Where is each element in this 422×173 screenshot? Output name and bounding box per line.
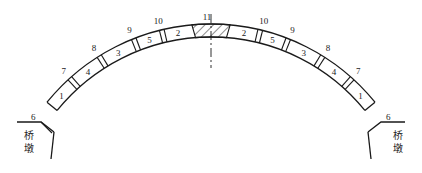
joint-label-right: 9 (290, 25, 295, 35)
left-pier (17, 122, 54, 159)
arch-end-left (47, 102, 57, 110)
joint-label-right: 10 (259, 16, 269, 26)
joint-line (259, 30, 262, 43)
joint-line (97, 57, 104, 68)
pier-label-right-1: 桥 (393, 130, 403, 141)
arch-end-right (365, 102, 375, 110)
crown-label: 11 (203, 12, 212, 22)
segment-label-right: 1 (358, 91, 363, 101)
joint-line (286, 40, 291, 52)
joint-line (131, 40, 136, 52)
joint-label-right-6: 6 (386, 112, 391, 122)
joint-label-left: 8 (92, 43, 97, 53)
joint-label-left: 9 (127, 25, 132, 35)
joint-label-left-6: 6 (31, 112, 36, 122)
joint-line (159, 30, 162, 43)
pier-label-right-2: 墩 (393, 142, 403, 154)
segment-label-right: 4 (332, 67, 337, 77)
joint-label-left: 10 (154, 16, 164, 26)
joint-line (314, 55, 321, 66)
segment-label-right: 3 (302, 48, 307, 58)
segment-label-right: 2 (242, 28, 247, 38)
joint-line (255, 29, 258, 42)
segment-label-left: 3 (116, 48, 121, 58)
joint-line (164, 29, 167, 42)
joint-label-right: 7 (356, 66, 361, 76)
pier-label-left-1: 桥 (24, 130, 34, 141)
joint-label-right: 8 (326, 43, 331, 53)
segment-label-left: 5 (147, 35, 152, 45)
segment-label-left: 2 (176, 28, 181, 38)
joint-line (136, 38, 141, 50)
joint-label-left: 7 (62, 66, 67, 76)
pier-label-left-2: 墩 (24, 142, 34, 154)
joint-line (281, 38, 286, 50)
segment-label-right: 5 (270, 35, 275, 45)
arch-diagram: 1144335522778899101011 6 6 桥 墩 桥 墩 (0, 0, 422, 173)
segment-label-left: 4 (86, 67, 91, 77)
segment-label-left: 1 (59, 91, 64, 101)
joint-line (101, 55, 108, 66)
joint-line (318, 57, 325, 68)
